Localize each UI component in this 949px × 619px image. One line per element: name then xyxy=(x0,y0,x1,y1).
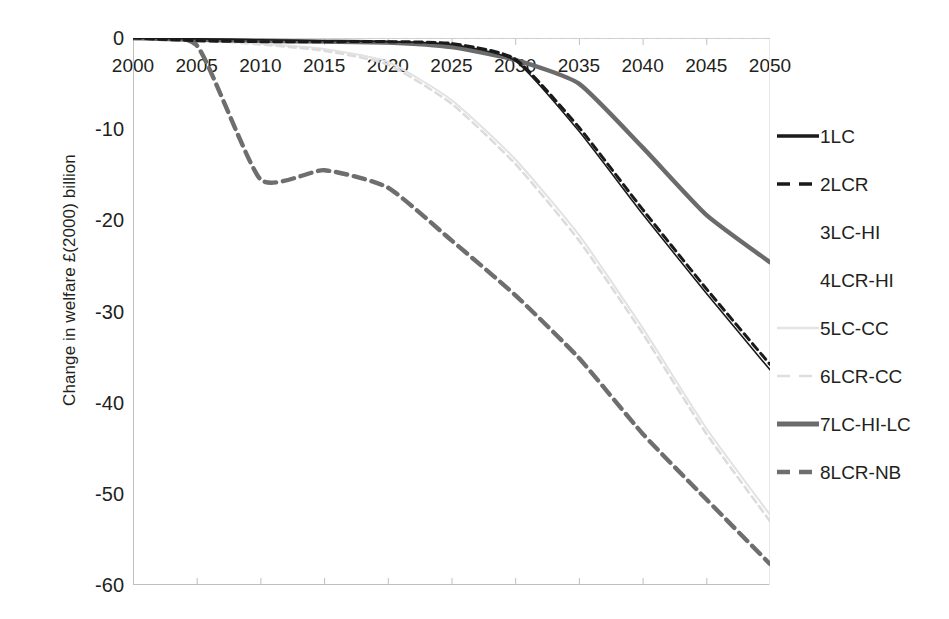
y-tick-label: -20 xyxy=(54,210,124,230)
legend-label: 1LC xyxy=(820,127,855,146)
legend-swatch-2lcr-icon xyxy=(776,177,820,191)
chart-legend: 1LC2LCR3LC-HI4LCR-HI5LC-CC6LCR-CC7LC-HI-… xyxy=(776,112,946,496)
legend-item-8lcr-nb[interactable]: 8LCR-NB xyxy=(776,448,946,496)
series-line-7lc-hi-lc xyxy=(133,38,770,262)
legend-label: 8LCR-NB xyxy=(820,463,901,482)
legend-label: 3LC-HI xyxy=(820,223,880,242)
legend-swatch-7lc-hi-lc-icon xyxy=(776,417,820,431)
legend-swatch-1lc-icon xyxy=(776,129,820,143)
plot-area xyxy=(133,38,770,585)
legend-item-5lc-cc[interactable]: 5LC-CC xyxy=(776,304,946,352)
legend-item-6lcr-cc[interactable]: 6LCR-CC xyxy=(776,352,946,400)
series-lines xyxy=(133,38,770,585)
legend-label: 6LCR-CC xyxy=(820,367,902,386)
y-tick-label: -60 xyxy=(54,575,124,595)
legend-swatch-5lc-cc-icon xyxy=(776,321,820,335)
legend-item-2lcr[interactable]: 2LCR xyxy=(776,160,946,208)
legend-swatch-6lcr-cc-icon xyxy=(776,369,820,383)
y-axis-tick-labels: 0-10-20-30-40-50-60 xyxy=(40,0,124,619)
y-tick-label: 0 xyxy=(54,28,124,48)
legend-swatch-8lcr-nb-icon xyxy=(776,465,820,479)
y-tick-label: -50 xyxy=(54,484,124,504)
legend-swatch-3lc-hi-icon xyxy=(776,225,820,239)
legend-label: 4LCR-HI xyxy=(820,271,894,290)
legend-label: 7LC-HI-LC xyxy=(820,415,911,434)
legend-label: 2LCR xyxy=(820,175,869,194)
series-line-8lcr-nb xyxy=(133,38,770,564)
y-tick-label: -30 xyxy=(54,302,124,322)
y-tick-label: -40 xyxy=(54,393,124,413)
series-line-1lc xyxy=(133,38,770,370)
legend-item-4lcr-hi[interactable]: 4LCR-HI xyxy=(776,256,946,304)
y-tick-label: -10 xyxy=(54,119,124,139)
legend-swatch-4lcr-hi-icon xyxy=(776,273,820,287)
legend-label: 5LC-CC xyxy=(820,319,889,338)
legend-item-1lc[interactable]: 1LC xyxy=(776,112,946,160)
legend-item-7lc-hi-lc[interactable]: 7LC-HI-LC xyxy=(776,400,946,448)
legend-item-3lc-hi[interactable]: 3LC-HI xyxy=(776,208,946,256)
welfare-change-line-chart: Change in welfare £(2000) billion 0-10-2… xyxy=(0,0,949,619)
series-line-2lcr xyxy=(133,38,770,364)
